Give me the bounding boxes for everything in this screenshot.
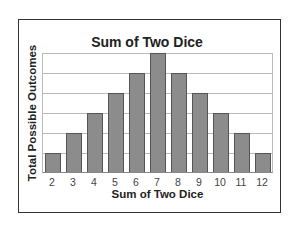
bar-11 (234, 133, 250, 172)
bar-4 (87, 113, 103, 172)
x-tick-label: 7 (147, 176, 167, 188)
x-tick-label: 4 (84, 176, 104, 188)
bar-2 (45, 153, 61, 172)
chart-title: Sum of Two Dice (0, 34, 294, 50)
plot-area (42, 53, 273, 173)
bar-9 (192, 93, 208, 172)
x-tick-label: 3 (63, 176, 83, 188)
bar-5 (108, 93, 124, 172)
x-tick-label: 12 (252, 176, 272, 188)
x-tick-label: 8 (168, 176, 188, 188)
bar-7 (150, 53, 166, 172)
y-axis-label: Total Possible Outcomes (26, 45, 38, 182)
bar-10 (213, 113, 229, 172)
x-axis-label: Sum of Two Dice (42, 188, 273, 200)
bar-6 (129, 73, 145, 172)
bar-12 (255, 153, 271, 172)
x-tick-label: 5 (105, 176, 125, 188)
bar-8 (171, 73, 187, 172)
x-tick-label: 10 (210, 176, 230, 188)
bar-3 (66, 133, 82, 172)
x-tick-label: 6 (126, 176, 146, 188)
x-tick-label: 11 (231, 176, 251, 188)
x-tick-label: 2 (42, 176, 62, 188)
x-tick-label: 9 (189, 176, 209, 188)
